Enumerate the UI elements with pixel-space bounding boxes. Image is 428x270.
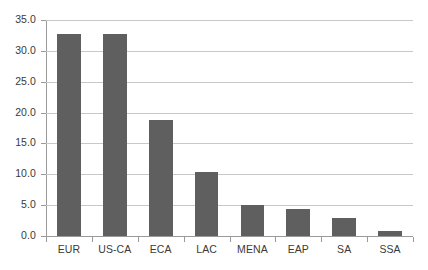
bar[interactable] [57,34,81,236]
bar-series [46,20,413,236]
x-tick-label: SA [321,243,367,255]
x-tick-mark [413,237,414,242]
bar-slot [46,20,92,236]
y-tick-label: 5.0 [2,199,36,210]
x-tick-label: ECA [138,243,184,255]
x-tick-mark [92,237,93,242]
bar-slot [138,20,184,236]
x-tick-mark [230,237,231,242]
bar[interactable] [103,34,127,236]
bar-slot [367,20,413,236]
x-tick-mark [275,237,276,242]
x-tick-label: LAC [184,243,230,255]
x-tick-mark [184,237,185,242]
y-tick-label: 30.0 [2,45,36,56]
x-tick-mark [367,237,368,242]
y-tick-label: 10.0 [2,168,36,179]
bar-slot [184,20,230,236]
y-tick-label: 35.0 [2,14,36,25]
x-tick-label: US-CA [92,243,138,255]
x-tick-label: SSA [367,243,413,255]
bar[interactable] [332,218,356,236]
bar-slot [230,20,276,236]
bar-slot [275,20,321,236]
y-tick-label: 15.0 [2,137,36,148]
bar[interactable] [149,120,173,236]
y-tick-label: 0.0 [2,230,36,241]
y-tick-label: 25.0 [2,76,36,87]
x-axis-labels: EURUS-CAECALACMENAEAPSASSA [46,243,413,255]
x-tick-mark [46,237,47,242]
y-tick-label: 20.0 [2,107,36,118]
bar[interactable] [378,231,402,236]
x-tick-mark [138,237,139,242]
x-tick-label: EUR [46,243,92,255]
bar[interactable] [286,209,310,236]
x-tick-label: EAP [275,243,321,255]
x-tick-mark [321,237,322,242]
bar[interactable] [241,205,265,236]
bar[interactable] [195,172,219,236]
bar-slot [321,20,367,236]
x-tick-label: MENA [230,243,276,255]
bar-chart: 35.030.025.020.015.010.05.00.0 EURUS-CAE… [0,0,428,270]
bar-slot [92,20,138,236]
